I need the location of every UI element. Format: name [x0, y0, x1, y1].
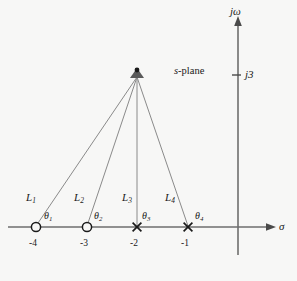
sigma-axis-arrowhead — [266, 223, 276, 231]
s-plane-graphic — [0, 0, 297, 281]
zero-marker-minus-3 — [82, 222, 91, 231]
angle-label-theta1: θ1 — [44, 211, 52, 223]
figure-canvas: σ jω j3 s-plane L1 L2 L3 L4 θ1 θ2 θ3 θ4 … — [0, 0, 297, 281]
angle-label-theta4: θ4 — [195, 211, 203, 223]
vector-label-L2: L2 — [74, 192, 84, 205]
vector-line-L4 — [137, 77, 188, 226]
s-plane-italic-s: s — [174, 65, 178, 76]
j-omega-axis-arrowhead — [234, 16, 242, 26]
s-plane-label: s-plane — [174, 66, 204, 77]
axis-value-minus-2: -2 — [130, 239, 138, 249]
axis-value-minus-4: -4 — [29, 239, 37, 249]
angle-label-theta2: θ2 — [94, 211, 102, 223]
test-point-marker — [130, 68, 144, 78]
angle-label-theta3: θ3 — [142, 211, 150, 223]
axis-value-minus-1: -1 — [181, 239, 189, 249]
axis-value-minus-3: -3 — [80, 239, 88, 249]
vector-label-L3: L3 — [122, 192, 132, 205]
vector-label-L4: L4 — [165, 192, 175, 205]
j3-tick-label: j3 — [245, 69, 254, 80]
sigma-axis-label: σ — [279, 221, 284, 232]
j-omega-axis-label: jω — [230, 6, 241, 17]
zero-marker-minus-4 — [31, 222, 40, 231]
vector-label-L1: L1 — [26, 192, 36, 205]
